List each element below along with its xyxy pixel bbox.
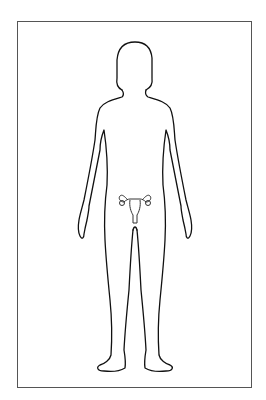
right-body-outline — [137, 90, 192, 371]
left-body-outline — [78, 90, 133, 371]
uterus-icon — [119, 195, 151, 223]
body-outline-diagram — [0, 0, 266, 400]
crotch-outline — [133, 227, 137, 230]
head-outline — [117, 42, 152, 90]
